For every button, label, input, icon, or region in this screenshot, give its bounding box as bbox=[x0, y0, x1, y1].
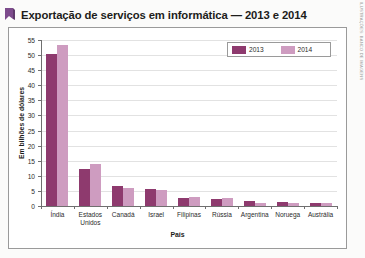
x-tick-label: Austrália bbox=[308, 211, 333, 219]
chart-frame: Em bilhões de dólares 051015202530354045… bbox=[8, 27, 347, 249]
bar-2013 bbox=[79, 169, 90, 206]
x-tick-label: Argentina bbox=[241, 211, 269, 219]
legend-label-2013: 2013 bbox=[249, 46, 264, 53]
y-tick-label: 55 bbox=[13, 37, 35, 44]
bookmark-mark-icon bbox=[3, 7, 16, 24]
bar-group bbox=[271, 40, 304, 206]
y-tick-label: 40 bbox=[13, 82, 35, 89]
bar-group bbox=[41, 40, 74, 206]
legend-item-2013: 2013 bbox=[232, 46, 278, 54]
bar-2014 bbox=[90, 164, 101, 206]
bar-groups bbox=[41, 40, 337, 206]
bar-2013 bbox=[112, 186, 123, 206]
y-tick-label: 15 bbox=[13, 157, 35, 164]
bar-2014 bbox=[189, 197, 200, 206]
y-tick-label: 35 bbox=[13, 97, 35, 104]
x-tick-mark bbox=[107, 206, 108, 209]
bar-2013 bbox=[277, 202, 288, 206]
y-tick-label: 10 bbox=[13, 172, 35, 179]
x-tick-label: Noruega bbox=[275, 211, 300, 219]
bar-chart: Em bilhões de dólares 051015202530354045… bbox=[9, 28, 346, 248]
y-tick-label: 30 bbox=[13, 112, 35, 119]
bar-2013 bbox=[178, 198, 189, 206]
bar-2014 bbox=[222, 198, 233, 206]
y-tick-label: 25 bbox=[13, 127, 35, 134]
x-tick-label: Índia bbox=[50, 211, 64, 219]
bar-group bbox=[140, 40, 173, 206]
image-credit: ILUSTRAÇÕES: BANCO DE IMAGENS bbox=[359, 2, 364, 80]
legend-swatch-2013 bbox=[232, 46, 246, 54]
x-tick-label: Canadá bbox=[112, 211, 135, 219]
x-tick-label: Israel bbox=[148, 211, 164, 219]
x-tick-mark bbox=[41, 206, 42, 209]
x-axis-line bbox=[41, 206, 337, 207]
x-tick-mark bbox=[74, 206, 75, 209]
x-tick-mark bbox=[205, 206, 206, 209]
bar-2014 bbox=[57, 45, 68, 206]
bar-2014 bbox=[156, 190, 167, 206]
legend-swatch-2014 bbox=[281, 46, 295, 54]
x-tick-mark bbox=[140, 206, 141, 209]
legend-item-2014: 2014 bbox=[281, 46, 327, 54]
bar-2013 bbox=[310, 203, 321, 206]
bar-2014 bbox=[321, 203, 332, 206]
bar-2014 bbox=[123, 188, 134, 206]
bar-2013 bbox=[244, 201, 255, 206]
y-tick-label: 5 bbox=[13, 187, 35, 194]
bar-2013 bbox=[145, 189, 156, 206]
y-tick-label: 45 bbox=[13, 67, 35, 74]
chart-title-row: Exportação de serviços em informática — … bbox=[0, 4, 349, 26]
bar-group bbox=[238, 40, 271, 206]
y-tick-label: 50 bbox=[13, 52, 35, 59]
page-title: Exportação de serviços em informática — … bbox=[21, 9, 307, 21]
y-tick-label: 20 bbox=[13, 142, 35, 149]
bar-group bbox=[173, 40, 206, 206]
chart-page: Exportação de serviços em informática — … bbox=[0, 0, 365, 258]
bar-group bbox=[304, 40, 337, 206]
bar-2013 bbox=[46, 54, 57, 206]
x-tick-mark bbox=[304, 206, 305, 209]
chart-legend: 2013 2014 bbox=[227, 42, 331, 57]
bar-2014 bbox=[255, 203, 266, 206]
x-tick-mark bbox=[173, 206, 174, 209]
bar-2014 bbox=[288, 203, 299, 206]
x-tick-label: Rússia bbox=[212, 211, 232, 219]
x-axis-label: País bbox=[9, 231, 346, 238]
x-tick-mark bbox=[337, 206, 338, 209]
y-tick-label: 0 bbox=[13, 203, 35, 210]
x-tick-label: Estados Unidos bbox=[79, 211, 103, 226]
x-tick-mark bbox=[238, 206, 239, 209]
bar-group bbox=[205, 40, 238, 206]
bar-group bbox=[74, 40, 107, 206]
bar-2013 bbox=[211, 199, 222, 206]
x-tick-mark bbox=[271, 206, 272, 209]
bar-group bbox=[107, 40, 140, 206]
legend-label-2014: 2014 bbox=[298, 46, 313, 53]
x-tick-label: Filipinas bbox=[177, 211, 201, 219]
